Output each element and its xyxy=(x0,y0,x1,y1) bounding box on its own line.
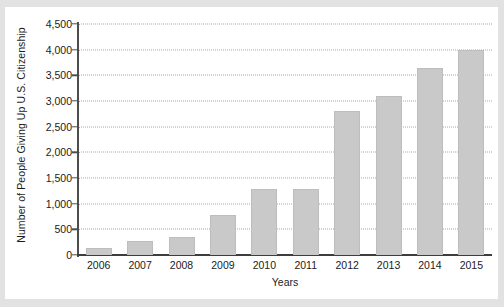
y-tick-label: 1,500 xyxy=(46,172,72,184)
x-axis-tick-labels: 2006200720082009201020112012201320142015 xyxy=(78,259,492,271)
bar-slot xyxy=(119,24,160,255)
x-axis-title: Years xyxy=(78,276,492,288)
scan-edge-left xyxy=(0,0,5,307)
bar xyxy=(251,189,277,255)
bar-slot xyxy=(202,24,243,255)
bar xyxy=(334,111,360,255)
y-tick-label: 1,000 xyxy=(46,198,72,210)
bar xyxy=(169,237,195,255)
bar xyxy=(86,248,112,255)
x-tick-label: 2013 xyxy=(368,259,409,271)
x-tick-label: 2014 xyxy=(409,259,450,271)
plot-area xyxy=(78,24,492,255)
bar xyxy=(376,96,402,255)
bar xyxy=(417,68,443,255)
scan-edge-top xyxy=(0,0,504,7)
y-tick-label: 4,000 xyxy=(46,44,72,56)
y-axis-title-text: Number of People Giving Up U.S. Citizens… xyxy=(15,27,27,243)
bar-slot xyxy=(161,24,202,255)
x-tick-label: 2011 xyxy=(285,259,326,271)
x-tick-label: 2012 xyxy=(326,259,367,271)
bar xyxy=(458,50,484,255)
y-tick-label: 4,500 xyxy=(46,18,72,30)
y-tick-label: 2,500 xyxy=(46,121,72,133)
bar-slot xyxy=(451,24,492,255)
x-tick-label: 2009 xyxy=(202,259,243,271)
bar xyxy=(127,241,153,255)
x-tick-label: 2010 xyxy=(244,259,285,271)
bar-slot xyxy=(409,24,450,255)
x-tick-label: 2007 xyxy=(119,259,160,271)
bar-slot xyxy=(326,24,367,255)
bar-slot xyxy=(78,24,119,255)
bar-chart-figure: Number of People Giving Up U.S. Citizens… xyxy=(0,0,504,307)
bar-slot xyxy=(285,24,326,255)
y-axis-tick-labels: 05001,0001,5002,0002,5003,0003,5004,0004… xyxy=(30,24,72,255)
bar-series xyxy=(78,24,492,255)
y-tick-label: 500 xyxy=(54,223,72,235)
bar-slot xyxy=(368,24,409,255)
bar-slot xyxy=(244,24,285,255)
bar xyxy=(210,215,236,255)
x-tick-label: 2008 xyxy=(161,259,202,271)
scan-edge-bottom xyxy=(0,299,504,307)
y-tick-label: 2,000 xyxy=(46,146,72,158)
y-axis-title: Number of People Giving Up U.S. Citizens… xyxy=(11,0,31,270)
x-tick-label: 2015 xyxy=(451,259,492,271)
scan-edge-right xyxy=(498,0,504,307)
y-tick-label: 3,000 xyxy=(46,95,72,107)
x-tick-label: 2006 xyxy=(78,259,119,271)
y-tick-label: 3,500 xyxy=(46,69,72,81)
bar xyxy=(293,189,319,255)
